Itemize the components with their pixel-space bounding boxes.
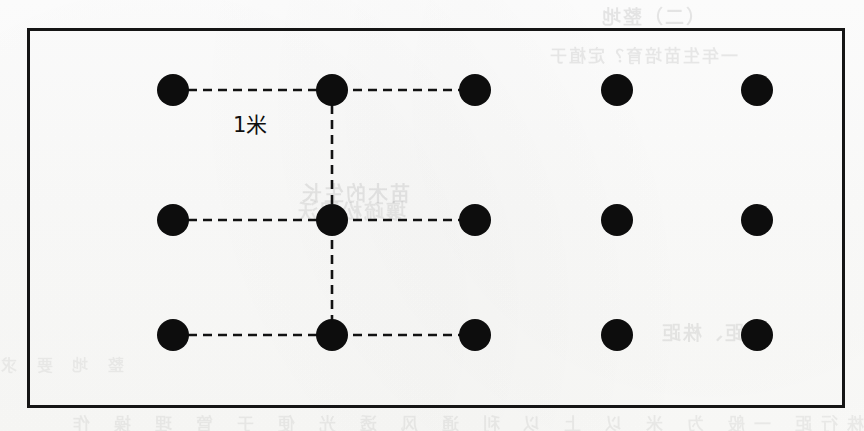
diagram-frame	[27, 28, 845, 408]
spacing-dimension-label: 1米	[233, 108, 267, 138]
bleed-through-text-bottom-band: 株行距 一般 为 米 以 上 以 利 通 风 透 光 便 于 管 理 操 作	[0, 410, 864, 431]
bleed-through-text-top-right: （二）整地	[600, 2, 705, 29]
scanned-page: （二）整地 一年生苗培育？定植于 苗木的生长 壤疏松肥沃 行距、株距 整 地 要…	[0, 0, 864, 431]
